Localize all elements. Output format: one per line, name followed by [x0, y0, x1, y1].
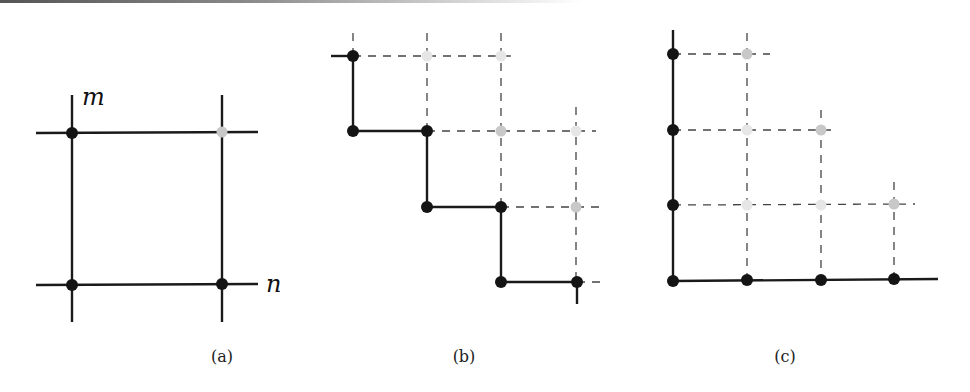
black-node-dot — [667, 124, 679, 136]
panel-b: (b) — [331, 33, 600, 366]
black-node-dot — [815, 274, 827, 286]
black-node-dot — [347, 50, 359, 62]
label-n: n — [266, 270, 281, 298]
caption-a: (a) — [211, 347, 233, 366]
lattice-diagram: m n (a) (b) (c) — [0, 0, 970, 392]
panel-a: m n (a) — [36, 83, 281, 366]
black-node-dot — [667, 199, 679, 211]
black-node-dot — [667, 275, 679, 287]
black-node-dot — [347, 125, 359, 137]
black-node-dot — [66, 127, 78, 139]
panel-c: (c) — [667, 30, 938, 366]
gray-node-dot — [816, 125, 827, 136]
black-node-dot — [571, 276, 583, 288]
light-node-dot — [496, 51, 507, 62]
gray-node-dot — [889, 199, 900, 210]
gray-node-dot — [742, 49, 753, 60]
black-node-dot — [421, 201, 433, 213]
light-node-dot — [816, 200, 827, 211]
light-node-dot — [422, 51, 433, 62]
gray-node-dot — [496, 126, 507, 137]
light-node-dot — [742, 200, 753, 211]
gray-node-dot — [571, 202, 582, 213]
black-node-dot — [888, 273, 900, 285]
caption-b: (b) — [453, 347, 476, 366]
black-node-dot — [495, 276, 507, 288]
black-node-dot — [667, 48, 679, 60]
light-node-dot — [571, 126, 582, 137]
black-node-dot — [216, 278, 228, 290]
label-m: m — [82, 83, 105, 111]
black-node-dot — [66, 279, 78, 291]
dashed-lattice-line — [673, 204, 915, 205]
black-node-dot — [741, 274, 753, 286]
black-node-dot — [421, 125, 433, 137]
gray-node-dot — [217, 127, 228, 138]
light-node-dot — [742, 125, 753, 136]
black-node-dot — [495, 201, 507, 213]
caption-c: (c) — [774, 347, 795, 366]
